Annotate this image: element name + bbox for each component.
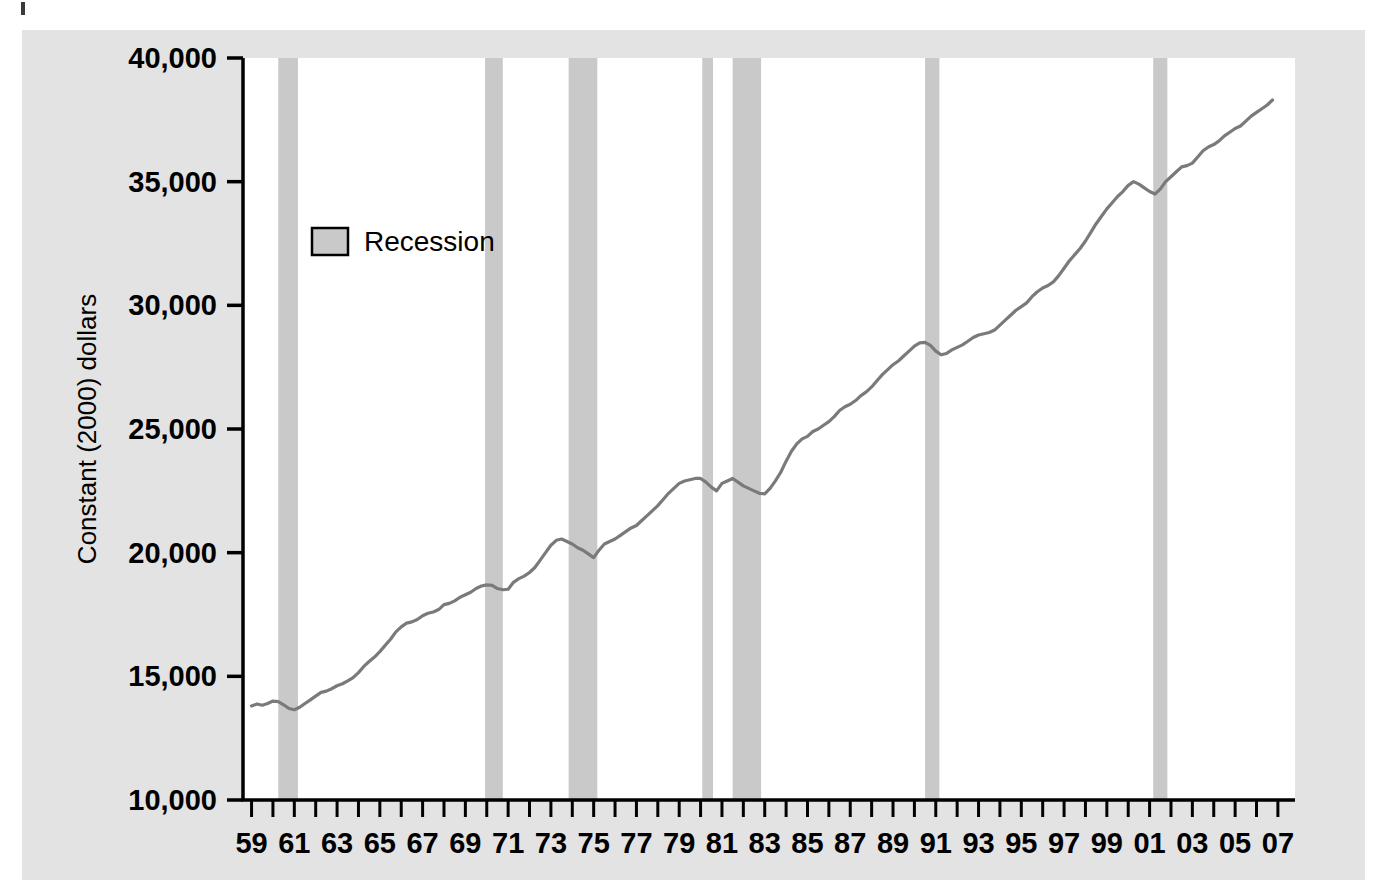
recession-band (733, 58, 761, 800)
plot-background (243, 58, 1295, 800)
chart-panel: 10,00015,00020,00025,00030,00035,00040,0… (22, 30, 1365, 880)
recession-band (278, 58, 298, 800)
x-tick-label: 69 (449, 827, 481, 859)
x-tick-label: 77 (620, 827, 652, 859)
recession-band (1153, 58, 1167, 800)
y-tick-label: 15,000 (128, 660, 217, 692)
x-tick-label: 99 (1091, 827, 1123, 859)
y-axis-title: Constant (2000) dollars (72, 294, 102, 564)
x-tick-label: 63 (321, 827, 353, 859)
x-tick-label: 59 (235, 827, 267, 859)
recession-band (485, 58, 503, 800)
x-tick-label: 97 (1048, 827, 1080, 859)
legend-label-recession: Recession (364, 226, 495, 257)
y-tick-label: 10,000 (128, 784, 217, 816)
chart-legend: Recession (312, 226, 495, 257)
x-tick-label: 87 (834, 827, 866, 859)
x-tick-label: 61 (278, 827, 310, 859)
x-tick-label: 73 (535, 827, 567, 859)
y-tick-label: 20,000 (128, 537, 217, 569)
y-axis-title-text: Constant (2000) dollars (72, 294, 102, 564)
recession-band (702, 58, 713, 800)
x-tick-label: 81 (706, 827, 738, 859)
recession-band (925, 58, 939, 800)
y-axis-ticks (227, 58, 243, 800)
x-tick-label: 83 (749, 827, 781, 859)
recession-band (569, 58, 598, 800)
y-tick-label: 40,000 (128, 42, 217, 74)
x-tick-label: 95 (1005, 827, 1037, 859)
x-tick-label: 65 (364, 827, 396, 859)
y-tick-label: 35,000 (128, 166, 217, 198)
x-tick-label: 93 (962, 827, 994, 859)
x-axis-tick-labels: 5961636567697173757779818385878991939597… (235, 827, 1294, 859)
page-edge-mark (21, 2, 25, 15)
x-tick-label: 71 (492, 827, 524, 859)
x-tick-label: 01 (1133, 827, 1165, 859)
x-tick-label: 91 (920, 827, 952, 859)
legend-swatch-recession (312, 228, 348, 255)
x-tick-label: 79 (663, 827, 695, 859)
x-tick-label: 05 (1219, 827, 1251, 859)
x-tick-label: 03 (1176, 827, 1208, 859)
x-tick-label: 07 (1262, 827, 1294, 859)
x-axis-ticks (252, 800, 1278, 817)
y-axis-tick-labels: 10,00015,00020,00025,00030,00035,00040,0… (128, 42, 217, 816)
x-tick-label: 75 (578, 827, 610, 859)
recession-income-line-chart: 10,00015,00020,00025,00030,00035,00040,0… (22, 30, 1365, 880)
y-tick-label: 25,000 (128, 413, 217, 445)
figure-root: 10,00015,00020,00025,00030,00035,00040,0… (0, 0, 1387, 895)
x-tick-label: 85 (791, 827, 823, 859)
x-tick-label: 89 (877, 827, 909, 859)
y-tick-label: 30,000 (128, 289, 217, 321)
x-tick-label: 67 (406, 827, 438, 859)
